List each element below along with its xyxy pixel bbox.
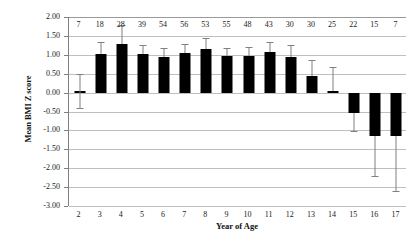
x-axis-tick-label: 10 [237,208,258,221]
bar [159,57,170,92]
x-axis-tick-label: 7 [174,208,195,221]
sample-count-label: 7 [385,19,406,31]
bar-group [111,17,132,206]
error-bar-cap-upper [245,47,252,48]
bar-group [175,17,196,206]
bar [264,52,275,92]
bar-series [69,17,406,206]
bar [201,49,212,92]
error-bar-cap-upper [182,44,189,45]
error-bar [354,113,355,131]
sample-count-label: 48 [237,19,258,31]
bar-group [90,17,111,206]
error-bar-cap-upper [97,42,104,43]
sample-count-label: 53 [195,19,216,31]
sample-count-label: 7 [68,19,89,31]
sample-count-label: 30 [300,19,321,31]
error-bar-cap-upper [287,45,294,46]
error-bar [185,44,186,53]
x-axis-title: Year of Age [68,221,406,231]
x-axis-tick-label: 16 [364,208,385,221]
y-axis-tick-label: 1.00 [14,51,60,59]
x-axis-tick-label: 12 [279,208,300,221]
error-bar [142,45,143,54]
error-bar-cap-upper [76,74,83,75]
bar-group [132,17,153,206]
bar [180,53,191,92]
error-bar-cap-upper [139,45,146,46]
error-bar-cap-upper [330,67,337,68]
sample-count-label: 39 [131,19,152,31]
x-axis-tick-label: 13 [300,208,321,221]
x-axis-tick-label: 2 [68,208,89,221]
sample-count-label: 15 [364,19,385,31]
plot-area [68,17,406,206]
x-axis-tick-label: 3 [89,208,110,221]
gridline [69,206,406,207]
bar [95,54,106,93]
error-bar [290,45,291,57]
y-axis-tick-label: -3.00 [14,202,60,210]
error-bar [311,60,312,76]
bmi-z-score-chart: Mean BMI Z score 2.001.501.000.500.00-0.… [0,0,419,242]
error-bar [375,136,376,176]
x-axis-tick-label: 5 [131,208,152,221]
y-axis-tick-label: 0.50 [14,70,60,78]
bar-group [280,17,301,206]
error-bar-cap-upper [161,48,168,49]
bar-group [365,17,386,206]
bar [306,76,317,93]
bar-group [344,17,365,206]
x-axis-tick-label: 9 [216,208,237,221]
sample-count-labels: 718283954565355484330302522157 [68,19,406,31]
error-bar-cap-lower [351,131,358,132]
error-bar-cap-upper [308,60,315,61]
y-axis-tick-label: -1.50 [14,145,60,153]
sample-count-label: 56 [174,19,195,31]
error-bar-cap-lower [372,176,379,177]
error-bar-cap-lower [76,108,83,109]
bar [222,56,233,93]
error-bar [333,67,334,92]
bar-group [386,17,407,206]
error-bar-cap-upper [266,42,273,43]
bar [349,93,360,114]
sample-count-label: 30 [279,19,300,31]
y-axis-tick-label: -0.50 [14,108,60,116]
bar-group [69,17,90,206]
bar [328,91,339,93]
x-axis-tick-label: 11 [258,208,279,221]
bar-group [301,17,322,206]
sample-count-label: 43 [258,19,279,31]
error-bar [79,74,80,108]
bar [243,56,254,93]
x-axis-tick-label: 17 [385,208,406,221]
bar-group [196,17,217,206]
error-bar-cap-upper [224,48,231,49]
y-axis-tick-label: 1.50 [14,32,60,40]
sample-count-label: 54 [153,19,174,31]
error-bar-cap-upper [203,38,210,39]
sample-count-label: 25 [322,19,343,31]
bar [116,44,127,92]
bar-group [323,17,344,206]
error-bar [164,48,165,57]
y-axis-tick-mark [64,206,68,207]
x-axis-tick-label: 4 [110,208,131,221]
x-axis-tick-labels: 234567891011121314151617 [68,208,406,221]
bar-group [238,17,259,206]
x-axis-tick-label: 8 [195,208,216,221]
error-bar [206,38,207,49]
error-bar [248,47,249,56]
x-axis-tick-label: 15 [343,208,364,221]
x-axis-tick-label: 6 [153,208,174,221]
bar [285,57,296,93]
y-axis-tick-label: 2.00 [14,13,60,21]
sample-count-label: 28 [110,19,131,31]
error-bar [100,42,101,54]
bar-group [259,17,280,206]
bar-group [217,17,238,206]
y-axis-tick-label: -2.00 [14,164,60,172]
error-bar [269,42,270,52]
y-axis-tick-label: -2.50 [14,183,60,191]
